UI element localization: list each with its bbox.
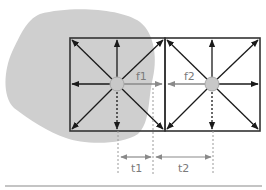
node-2 <box>205 77 219 91</box>
label-t2: t2 <box>178 162 189 175</box>
label-f1: f1 <box>136 70 147 83</box>
region-blob <box>6 9 155 142</box>
node-1 <box>110 77 124 91</box>
label-t1: t1 <box>131 162 142 175</box>
diagram-canvas: f1 f2 t1 t2 <box>0 0 266 190</box>
label-f2: f2 <box>184 70 195 83</box>
